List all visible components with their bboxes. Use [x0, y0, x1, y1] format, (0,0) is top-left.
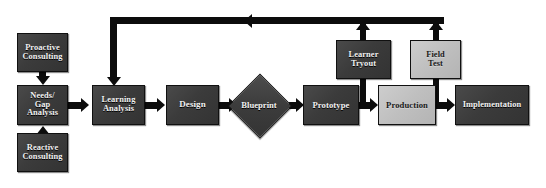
prototype-to-production-arrowhead	[370, 98, 378, 112]
learning-to-design-arrowhead	[157, 98, 165, 112]
flowchart-diagram: Proactive Consulting Needs/ Gap Analysis…	[0, 0, 546, 188]
needs-to-learning-arrowhead	[81, 98, 89, 112]
feedback-loop-horizontal-bus	[110, 17, 444, 24]
node-learning-analysis-label: Learning Analysis	[100, 96, 138, 113]
node-production-label: Production	[384, 101, 430, 110]
node-needs-gap-analysis-label: Needs/ Gap Analysis	[25, 92, 60, 118]
feedback-loop-vertical-drop	[110, 17, 117, 79]
field-test-feedback-arrowhead	[429, 21, 443, 30]
node-learning-analysis[interactable]: Learning Analysis	[92, 85, 145, 125]
node-blueprint-label: Blueprint	[228, 75, 290, 135]
node-field-test[interactable]: Field Test	[410, 40, 461, 79]
node-reactive-consulting[interactable]: Reactive Consulting	[17, 133, 68, 172]
node-implementation[interactable]: Implementation	[455, 85, 529, 125]
node-prototype[interactable]: Prototype	[303, 85, 359, 125]
node-blueprint[interactable]: Blueprint	[228, 75, 290, 135]
needs-to-learning-stem	[68, 102, 82, 109]
learner-tryout-feedback-arrowhead	[356, 21, 370, 30]
node-field-test-label: Field Test	[424, 51, 447, 68]
node-learner-tryout[interactable]: Learner Tryout	[336, 40, 391, 79]
feedback-loop-left-arrowhead	[244, 14, 252, 28]
node-learner-tryout-label: Learner Tryout	[346, 51, 380, 68]
proactive-to-needs-arrowhead	[36, 76, 50, 85]
node-design[interactable]: Design	[166, 85, 219, 125]
production-to-implementation-arrowhead	[447, 98, 455, 112]
node-design-label: Design	[177, 100, 208, 109]
node-prototype-label: Prototype	[310, 101, 351, 110]
node-proactive-consulting-label: Proactive Consulting	[20, 44, 64, 61]
node-implementation-label: Implementation	[461, 101, 524, 110]
node-proactive-consulting[interactable]: Proactive Consulting	[17, 33, 68, 72]
node-reactive-consulting-label: Reactive Consulting	[20, 144, 64, 161]
node-needs-gap-analysis[interactable]: Needs/ Gap Analysis	[17, 85, 68, 125]
node-production[interactable]: Production	[378, 85, 436, 125]
